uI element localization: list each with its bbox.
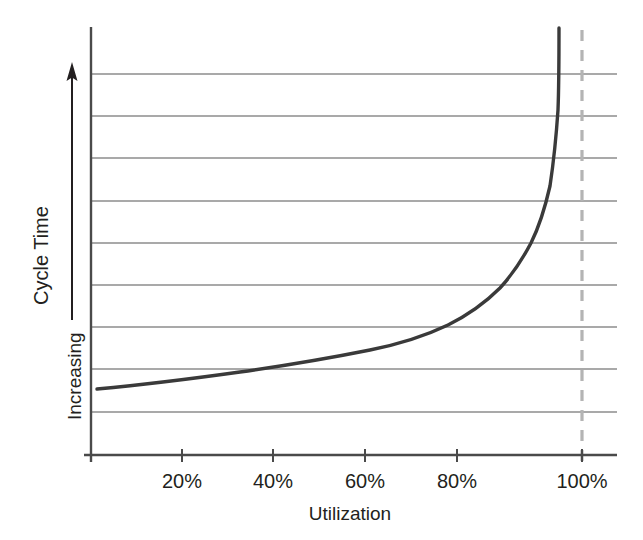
- x-tick-label-60: 60%: [335, 470, 395, 493]
- cycle-time-utilization-chart: 20% 40% 60% 80% 100% Utilization Cycle T…: [0, 0, 643, 540]
- chart-canvas: [0, 0, 643, 540]
- cycle-time-curve: [97, 28, 559, 389]
- increasing-arrow-icon: [67, 62, 78, 320]
- y-axis-direction-label: Increasing: [64, 332, 86, 420]
- x-tick-label-80: 80%: [427, 470, 487, 493]
- x-axis-title: Utilization: [295, 503, 405, 525]
- x-tick-label-20: 20%: [152, 470, 212, 493]
- gridlines: [91, 74, 617, 412]
- x-tick-label-100: 100%: [545, 470, 619, 493]
- x-tick-label-40: 40%: [243, 470, 303, 493]
- y-axis-title: Cycle Time: [30, 206, 53, 305]
